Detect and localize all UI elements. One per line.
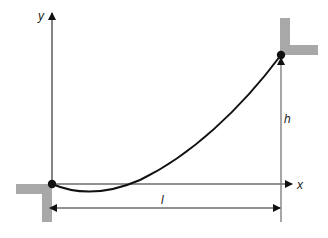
span-label: l: [161, 193, 164, 207]
right-support-horizontal: [280, 45, 318, 55]
left-support-point: [48, 180, 56, 188]
left-support-vertical: [42, 184, 52, 222]
left-support: [16, 184, 52, 222]
right-support: [280, 18, 318, 55]
y-axis-label: y: [37, 9, 45, 23]
height-label: h: [284, 112, 291, 126]
cable-diagram: y x h l: [0, 0, 328, 238]
right-support-point: [277, 51, 285, 59]
x-axis-label: x: [296, 178, 304, 192]
cable-curve: [52, 55, 281, 192]
